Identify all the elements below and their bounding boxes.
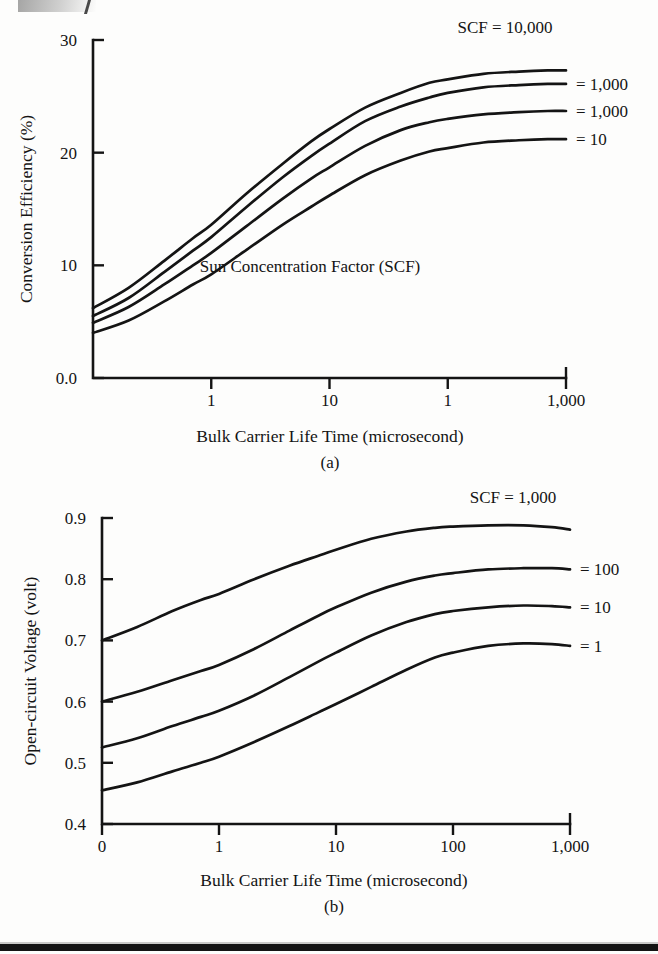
series-label: SCF = 10,000 — [457, 18, 552, 37]
y-tick-label: 10 — [60, 256, 77, 275]
y-tick-label: 20 — [60, 144, 77, 163]
x-tick-label: 1 — [207, 391, 216, 410]
x-axis-title: Bulk Carrier Life Time (microsecond) — [200, 870, 467, 890]
x-tick-label: 10 — [321, 391, 338, 410]
x-tick-label: 1 — [215, 837, 224, 856]
y-tick-label: 0.5 — [65, 754, 86, 773]
series-label: = 1,000 — [576, 75, 628, 94]
y-tick-label: 0.7 — [65, 631, 87, 650]
x-tick-label: 1,000 — [551, 837, 589, 856]
panel-caption: (b) — [324, 897, 344, 916]
series-label: SCF = 1,000 — [470, 488, 557, 507]
data-curve — [102, 605, 570, 747]
data-curve — [102, 568, 570, 702]
x-tick-label: 10 — [328, 837, 345, 856]
y-tick-label: 0.6 — [65, 693, 86, 712]
x-tick-label: 0 — [98, 837, 107, 856]
x-tick-label: 1,000 — [547, 391, 585, 410]
series-label: = 10 — [576, 130, 607, 149]
chart-annotation: Sun Concentration Factor (SCF) — [200, 257, 421, 276]
data-curve — [102, 643, 570, 790]
y-tick-label: 0.0 — [56, 369, 77, 388]
y-axis-title: Conversion Efficiency (%) — [16, 115, 36, 303]
series-label: = 1 — [580, 637, 602, 656]
axis-lines — [93, 40, 566, 378]
data-curve — [102, 525, 570, 640]
chart-panel-a: 0.010203011011,000SCF = 10,000= 1,000= 1… — [0, 14, 658, 474]
x-tick-label: 1 — [444, 391, 453, 410]
series-label: = 10 — [580, 598, 611, 617]
y-axis-title: Open-circuit Voltage (volt) — [20, 576, 40, 765]
figure-page: 0.010203011011,000SCF = 10,000= 1,000= 1… — [0, 0, 658, 954]
x-tick-label: 100 — [440, 837, 466, 856]
series-label: = 1,000 — [576, 102, 628, 121]
series-label: = 100 — [580, 560, 619, 579]
y-tick-label: 30 — [60, 31, 77, 50]
y-tick-label: 0.9 — [65, 509, 86, 528]
page-bottom-rule — [0, 944, 658, 951]
chart-panel-b: 0.40.50.60.70.80.901101001,000SCF = 1,00… — [0, 486, 658, 926]
y-tick-label: 0.8 — [65, 570, 86, 589]
data-curve — [93, 84, 566, 316]
axis-lines — [102, 518, 570, 824]
y-tick-label: 0.4 — [65, 815, 87, 834]
x-axis-title: Bulk Carrier Life Time (microsecond) — [196, 426, 463, 446]
chart-a-svg: 0.010203011011,000SCF = 10,000= 1,000= 1… — [0, 14, 658, 474]
chart-b-svg: 0.40.50.60.70.80.901101001,000SCF = 1,00… — [0, 486, 658, 926]
panel-caption: (a) — [321, 453, 340, 472]
